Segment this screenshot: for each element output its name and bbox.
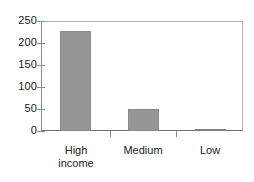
y-axis-label-50: 50 — [25, 103, 37, 114]
y-axis-tick-50 — [37, 109, 45, 110]
bar-chart: 250 200 150 100 50 0 High income Medium … — [0, 0, 254, 182]
y-axis-label-0: 0 — [31, 125, 37, 136]
y-axis-label-200: 200 — [18, 37, 37, 48]
x-axis-tick-2 — [176, 131, 177, 137]
y-axis-label-150: 150 — [18, 59, 37, 70]
bar-high-income — [60, 31, 91, 131]
bar-low — [195, 129, 226, 131]
x-axis-label-low: Low — [176, 144, 244, 157]
y-axis-tick-200 — [37, 43, 45, 44]
y-axis-tick-250 — [37, 21, 45, 22]
y-axis-label-100: 100 — [18, 81, 37, 92]
y-axis-tick-100 — [37, 87, 45, 88]
y-axis-tick-150 — [37, 65, 45, 66]
y-axis-label-250: 250 — [18, 15, 37, 26]
x-axis-label-medium: Medium — [109, 144, 177, 157]
x-axis-label-high-income: High income — [42, 144, 110, 170]
y-axis-tick-0 — [37, 131, 45, 132]
x-axis-tick-1 — [110, 131, 111, 137]
bar-medium — [128, 109, 159, 131]
